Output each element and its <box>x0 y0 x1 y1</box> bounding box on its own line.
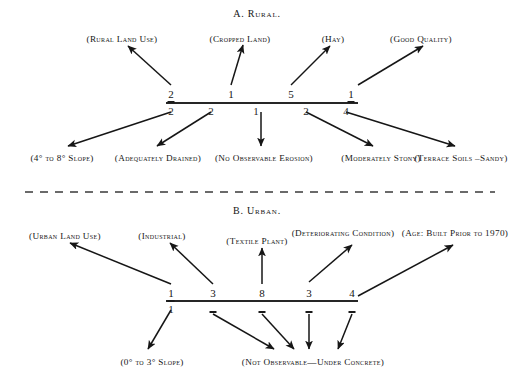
label-above-rural-1: (Cropped Land) <box>209 34 270 45</box>
code-underline-rural-3 <box>348 101 355 103</box>
arrow-up-urban-4 <box>358 245 453 296</box>
figure-vector-layer <box>0 0 514 382</box>
label-above-rural-2: (Hay) <box>322 34 345 45</box>
code-below-rural-4: 4 <box>343 105 349 117</box>
arrow-up-rural-0 <box>128 46 171 85</box>
label-above-urban-3: (Deteriorating Condition) <box>288 228 398 239</box>
label-above-urban-1: (Industrial) <box>138 231 185 242</box>
figure-canvas: A. Rural.215122124(Rural Land Use)(Cropp… <box>0 0 514 382</box>
arrow-down-urban-4 <box>338 314 352 349</box>
code-below-rural-0: 2 <box>168 105 174 117</box>
arrow-down-urban-2 <box>262 314 294 349</box>
label-below-rural-1: (Adequately Drained) <box>103 153 213 164</box>
arrow-down-urban-1 <box>213 314 274 349</box>
code-above-urban-0: 1 <box>168 287 174 299</box>
code-above-rural-3: 1 <box>348 88 354 100</box>
label-above-urban-2: (Textile Plant) <box>226 236 287 247</box>
code-above-rural-1: 1 <box>228 88 234 100</box>
code-below-rural-1: 2 <box>208 105 214 117</box>
label-above-rural-0: (Rural Land Use) <box>86 34 157 45</box>
arrow-up-urban-0 <box>70 243 171 284</box>
arrow-up-urban-1 <box>170 243 213 284</box>
arrow-up-rural-2 <box>291 46 330 85</box>
label-above-rural-3: (Good Quality) <box>390 34 452 45</box>
label-above-urban-0: (Urban Land Use) <box>29 231 101 242</box>
code-dash-below-urban-3 <box>349 311 356 313</box>
label-below-rural-4: (Terrace Soils –Sandy) <box>406 153 514 164</box>
arrow-up-rural-3 <box>358 46 423 85</box>
arrow-up-urban-3 <box>309 245 352 282</box>
code-above-urban-2: 8 <box>259 287 265 299</box>
code-above-rural-0: 2 <box>168 88 174 100</box>
code-above-urban-4: 4 <box>349 287 355 299</box>
label-below-urban-0: (0° to 3° Slope) <box>120 357 183 368</box>
code-dash-below-urban-1 <box>259 311 266 313</box>
code-above-rural-2: 5 <box>288 88 294 100</box>
section-title-rural: A. Rural. <box>233 8 281 19</box>
code-dash-below-urban-2 <box>306 311 313 313</box>
code-underline-urban-0 <box>168 300 175 302</box>
section-title-urban: B. Urban. <box>233 205 281 216</box>
label-above-urban-4: (Age: Built Prior to 1970) <box>400 228 510 239</box>
arrow-down-rural-0 <box>68 112 171 146</box>
code-below-rural-2: 1 <box>253 105 259 117</box>
code-above-urban-1: 3 <box>210 287 216 299</box>
code-below-rural-3: 2 <box>303 105 309 117</box>
label-below-rural-2: (No Observable Erosion) <box>215 153 313 164</box>
code-above-urban-3: 3 <box>306 287 312 299</box>
code-below-urban-0: 1 <box>168 303 174 315</box>
arrow-up-rural-1 <box>231 45 243 85</box>
code-underline-rural-0 <box>168 101 175 103</box>
arrow-down-urban-0 <box>148 310 171 349</box>
label-below-urban-1: (Not Observable—Under Concrete) <box>242 357 385 368</box>
arrow-down-rural-3 <box>306 112 373 146</box>
arrow-down-rural-4 <box>346 112 455 146</box>
label-below-rural-0: (4° to 8° Slope) <box>30 153 93 164</box>
code-dash-below-urban-0 <box>210 311 217 313</box>
arrow-down-rural-1 <box>157 112 211 146</box>
